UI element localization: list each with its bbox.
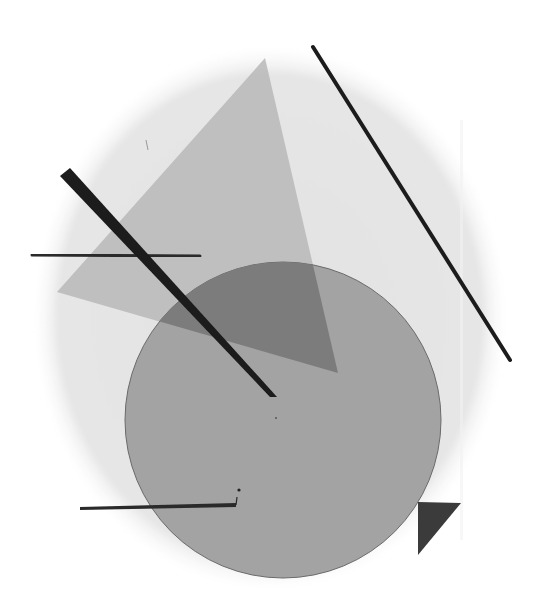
vertical-streak xyxy=(460,120,463,540)
abstract-artwork xyxy=(0,0,539,614)
corner-triangle xyxy=(418,502,461,555)
speck xyxy=(275,417,277,419)
left-horizontal-line xyxy=(32,255,200,256)
small-dot xyxy=(237,488,240,491)
